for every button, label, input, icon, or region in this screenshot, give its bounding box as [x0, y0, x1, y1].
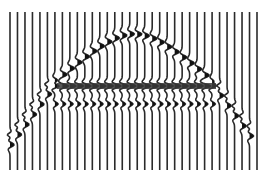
wiggle-trace	[217, 12, 223, 170]
wiggle-trace	[45, 12, 52, 170]
reflector-band	[57, 83, 216, 89]
wiggle-trace	[37, 12, 43, 170]
wiggle-traces	[7, 12, 257, 170]
wiggle-trace	[209, 12, 216, 170]
wiggle-trace	[30, 12, 36, 170]
wiggle-trace	[52, 12, 59, 170]
wiggle-trace	[247, 12, 254, 170]
seismic-wiggle-plot	[0, 0, 267, 180]
wiggle-trace	[239, 12, 246, 170]
wiggle-trace	[23, 12, 29, 170]
wiggle-trace	[225, 12, 231, 170]
wiggle-trace	[232, 12, 239, 170]
horizontal-reflector	[57, 83, 216, 89]
wiggle-trace	[15, 12, 21, 170]
